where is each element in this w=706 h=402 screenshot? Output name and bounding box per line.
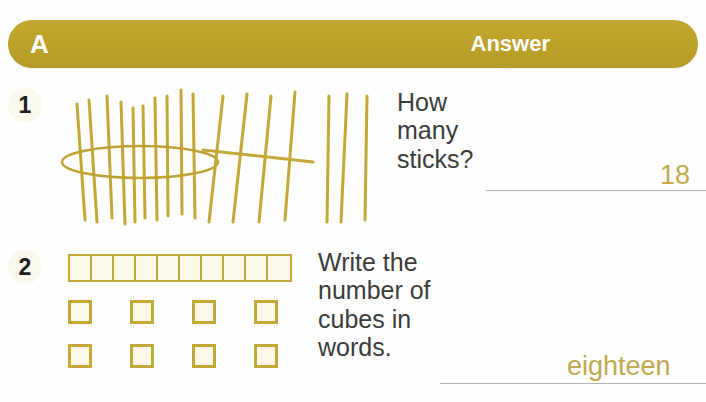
rod-cell (114, 256, 136, 280)
loose-cube (68, 344, 92, 368)
stick-loose-group (327, 94, 367, 222)
question-1-prompt: How many sticks? (397, 88, 473, 173)
question-1-answer-value: 18 (660, 162, 690, 189)
loose-cube (130, 300, 154, 324)
stick-tally-group (203, 92, 313, 222)
section-header-bar: A Answer (8, 20, 698, 68)
rod-cell (224, 256, 246, 280)
rod-cell (180, 256, 202, 280)
question-2-answer-value: eighteen (567, 353, 671, 380)
loose-cube (192, 300, 216, 324)
loose-cube (130, 344, 154, 368)
answer-column-label: Answer (471, 33, 550, 55)
rod-cell (202, 256, 224, 280)
rod-cell (92, 256, 114, 280)
question-2-answer-line[interactable] (440, 383, 706, 384)
stick-bundle-group (77, 90, 195, 224)
rod-cell (70, 256, 92, 280)
loose-cube (68, 300, 92, 324)
question-number-2: 2 (8, 250, 42, 284)
cubes-illustration (60, 248, 310, 388)
question-1-answer-line[interactable] (486, 190, 706, 191)
loose-cube (192, 344, 216, 368)
sticks-svg (55, 82, 400, 227)
rod-cell (158, 256, 180, 280)
sticks-illustration (55, 82, 400, 227)
loose-cube (254, 300, 278, 324)
question-2-prompt: Write the number of cubes in words. (318, 248, 431, 361)
cube-rod-of-ten (68, 254, 292, 282)
question-number-1: 1 (8, 88, 42, 122)
loose-cube (254, 344, 278, 368)
rod-cell (268, 256, 290, 280)
section-letter: A (30, 31, 49, 57)
rod-cell (246, 256, 268, 280)
rod-cell (136, 256, 158, 280)
